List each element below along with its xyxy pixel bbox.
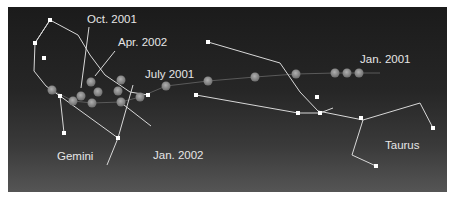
label-jan-2001: Jan. 2001 xyxy=(360,54,411,66)
star-chart xyxy=(0,0,455,199)
label-oct-2001: Oct. 2001 xyxy=(87,14,137,26)
constellation-taurus: Taurus xyxy=(385,140,420,152)
planet-positions xyxy=(48,69,364,108)
constellation-gemini: Gemini xyxy=(57,151,93,163)
stars xyxy=(33,18,435,168)
label-apr-2002: Apr. 2002 xyxy=(118,37,167,49)
label-jan-2002: Jan. 2002 xyxy=(153,150,204,162)
label-july-2001: July 2001 xyxy=(145,69,194,81)
